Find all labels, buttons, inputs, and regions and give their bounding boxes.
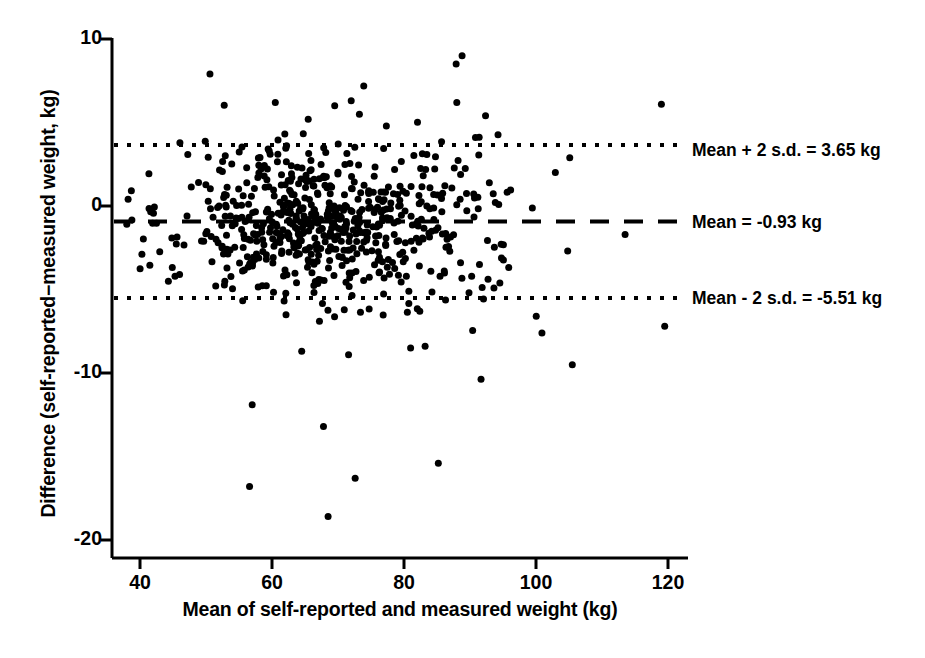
data-point: [402, 255, 409, 262]
data-point: [350, 226, 357, 233]
data-point: [331, 102, 338, 109]
data-point: [327, 190, 334, 197]
data-point: [207, 205, 214, 212]
data-point: [289, 221, 296, 228]
data-point: [326, 199, 333, 206]
data-point: [291, 191, 298, 198]
data-point: [442, 296, 449, 303]
data-point: [252, 232, 259, 239]
data-point: [227, 273, 234, 280]
data-point: [288, 170, 295, 177]
data-point: [348, 97, 355, 104]
data-point: [172, 273, 179, 280]
data-point: [405, 288, 412, 295]
data-point: [244, 253, 251, 260]
data-point: [293, 212, 300, 219]
annotation-lower-limit: Mean - 2 s.d. = -5.51 kg: [692, 288, 882, 309]
data-point: [282, 290, 289, 297]
x-tick-label: 80: [359, 571, 449, 594]
data-point: [427, 268, 434, 275]
data-point: [311, 176, 318, 183]
data-point: [198, 238, 205, 245]
data-point: [282, 267, 289, 274]
data-point: [239, 297, 246, 304]
data-point: [229, 222, 236, 229]
data-point: [229, 285, 236, 292]
data-point: [391, 166, 398, 173]
data-point: [397, 183, 404, 190]
data-point: [320, 144, 327, 151]
data-point: [239, 268, 246, 275]
data-point: [212, 283, 219, 290]
data-point: [278, 250, 285, 257]
data-point: [314, 191, 321, 198]
data-point: [458, 275, 465, 282]
bland-altman-plot: Difference (self-reported−measured weigh…: [0, 0, 925, 658]
data-point: [165, 278, 172, 285]
data-point: [231, 244, 238, 251]
data-point: [325, 265, 332, 272]
data-point: [323, 184, 330, 191]
data-point: [240, 192, 247, 199]
data-point: [367, 204, 374, 211]
data-point: [552, 169, 559, 176]
data-point: [491, 244, 498, 251]
data-point: [395, 272, 402, 279]
data-point: [463, 207, 470, 214]
data-point: [387, 199, 394, 206]
x-tick-label: 120: [623, 571, 713, 594]
data-point: [395, 237, 402, 244]
data-point: [149, 220, 156, 227]
data-point: [138, 251, 145, 258]
data-point: [320, 423, 327, 430]
data-point: [291, 270, 298, 277]
data-point: [284, 209, 291, 216]
data-point: [137, 265, 144, 272]
data-point: [441, 182, 448, 189]
data-point: [173, 240, 180, 247]
data-point: [188, 184, 195, 191]
data-point: [224, 184, 231, 191]
data-point: [486, 179, 493, 186]
data-point: [249, 260, 256, 267]
data-point: [236, 259, 243, 266]
data-point: [353, 238, 360, 245]
data-point: [398, 278, 405, 285]
data-point: [500, 241, 507, 248]
data-point: [221, 102, 228, 109]
data-point: [425, 230, 432, 237]
data-point: [364, 222, 371, 229]
data-point: [319, 225, 326, 232]
data-point: [475, 205, 482, 212]
data-point: [319, 300, 326, 307]
data-point: [268, 211, 275, 218]
data-point: [278, 171, 285, 178]
data-point: [505, 264, 512, 271]
data-point: [533, 313, 540, 320]
data-point: [451, 165, 458, 172]
data-point: [380, 291, 387, 298]
data-point: [210, 214, 217, 221]
data-point: [341, 191, 348, 198]
data-point: [218, 244, 225, 251]
data-point: [383, 235, 390, 242]
data-point: [238, 202, 245, 209]
data-point: [253, 238, 260, 245]
data-point: [223, 232, 230, 239]
data-point: [441, 269, 448, 276]
data-point: [380, 312, 387, 319]
data-point: [321, 174, 328, 181]
data-point: [422, 166, 429, 173]
data-point: [147, 208, 154, 215]
x-tick-label: 100: [491, 571, 581, 594]
data-point: [300, 229, 307, 236]
data-point: [434, 191, 441, 198]
data-point: [271, 193, 278, 200]
data-point: [348, 270, 355, 277]
data-point: [347, 207, 354, 214]
data-point: [420, 172, 427, 179]
data-point: [355, 196, 362, 203]
data-point: [426, 205, 433, 212]
data-point: [391, 231, 398, 238]
data-point: [482, 112, 489, 119]
